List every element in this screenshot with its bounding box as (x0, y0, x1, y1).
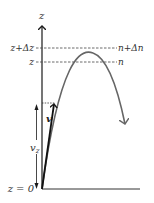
velocity-label: v (46, 113, 52, 124)
origin-label: z = 0 (7, 183, 35, 194)
level-label-n-plus-dn: n+Δn (118, 43, 144, 53)
trajectory-diagram: z z+Δz z n+Δn n v vz z = 0 (0, 0, 154, 203)
z-axis-label: z (38, 10, 45, 21)
level-label-z-plus-dz: z+Δz (9, 43, 34, 53)
level-label-n: n (118, 57, 124, 67)
trajectory-curve (42, 52, 125, 189)
level-label-z: z (28, 57, 34, 67)
